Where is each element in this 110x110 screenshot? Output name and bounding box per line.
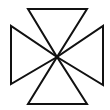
cross-figure	[0, 0, 110, 110]
